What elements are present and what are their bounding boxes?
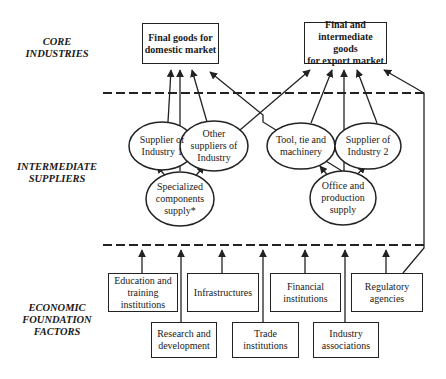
box-education-training: Education and training institutions [108, 273, 178, 312]
box-infrastructures: Infrastructures [187, 273, 259, 312]
box-regulatory-agencies: Regulatory agencies [351, 273, 423, 312]
box-final-intermediate-export: Final and intermediate goods for export … [304, 22, 387, 64]
node-tool-tie-machinery: Tool, tie and machinery [267, 123, 335, 169]
tier-label-foundation: ECONOMIC FOUNDATION FACTORS [2, 302, 112, 338]
tier-label-intermediate: INTERMEDIATE SUPPLIERS [2, 161, 112, 185]
box-research-development: Research and development [151, 322, 217, 358]
box-industry-associations: Industry associations [313, 322, 379, 358]
box-trade-institutions: Trade institutions [232, 322, 299, 358]
node-specialized-components: Specialized components supply* [146, 172, 214, 226]
node-other-suppliers: Other suppliers of Industry [180, 121, 248, 171]
tier-label-core: CORE INDUSTRIES [2, 36, 112, 60]
node-office-production-supply: Office and production supply [310, 171, 376, 225]
box-financial-institutions: Financial institutions [270, 273, 341, 312]
box-final-goods-domestic: Final goods for domestic market [142, 23, 219, 64]
node-supplier-industry-2: Supplier of Industry 2 [335, 123, 401, 169]
